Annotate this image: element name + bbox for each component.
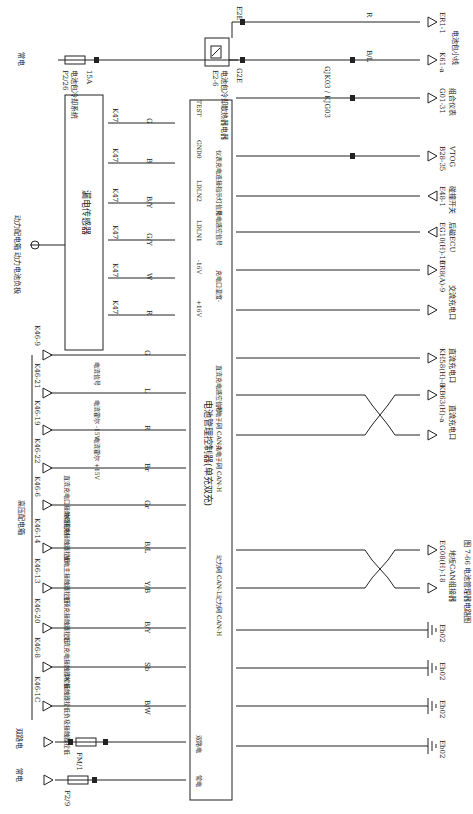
dest-g01-31-desc: 组合仪表: [448, 88, 455, 116]
ground-eb02-2: Eb02: [438, 662, 445, 681]
connector-er1-1-icon: [428, 17, 437, 27]
k47-pin-4: K47: [111, 300, 118, 314]
bms-pin-test: TEST: [196, 100, 202, 117]
k46-13-wire: Y/B: [143, 581, 150, 593]
bms-pin-plus16v: +16V: [196, 300, 202, 317]
relay-id: E2-6: [211, 70, 218, 86]
k47-pin-6: K47: [111, 108, 118, 122]
ground-symbols: [428, 622, 436, 754]
dest-eg10: EG10(H)-10: [438, 222, 445, 264]
k46-22-wire: Br: [143, 463, 150, 472]
dest-e48-1-desc: 碰撞开关: [448, 186, 455, 214]
k47-pin-3: K47: [111, 148, 118, 162]
dest-er8-9: ER8(A)-9: [438, 260, 445, 292]
battery-pack-conn-er1-1: ER1-1: [438, 12, 445, 34]
k46-14: K46-14: [33, 518, 40, 543]
bms-pin-dual-path: 双路电: [196, 735, 202, 753]
battery-pack-group-label: 电池包小线: [451, 30, 458, 65]
ground-eb02-3: Eb02: [438, 700, 445, 719]
k46-6-wire: Gr: [143, 500, 150, 509]
dest-g01-31: G01-31: [438, 88, 445, 114]
k47-wire-r: R: [145, 310, 152, 315]
wire-er1-color: R: [365, 12, 372, 17]
k46-21: K46-21: [33, 363, 40, 388]
k46-1c-wire: B/W: [143, 700, 150, 715]
dest-kh58-desc: 直流充电口: [448, 348, 455, 383]
relay-e2-6-icon: [205, 38, 229, 66]
dest-dc-charge-port: 直流充电口: [448, 405, 455, 440]
bms-r-pin-14: 充电子网 CAN-H: [216, 445, 222, 492]
k46-9-wire: G: [143, 350, 150, 356]
k46-13: K46-13: [33, 558, 40, 583]
k46-20-wire: B/Y: [143, 621, 150, 633]
k47-wire-b: B: [145, 158, 152, 163]
dest-floor-can: 地板CAN组接器: [448, 550, 455, 602]
always-on-label-top: 常电: [17, 52, 24, 66]
k46-21-desc: 电流霍尔 -15V: [94, 400, 100, 440]
bms-r-pin-26: 充电口温度-: [216, 270, 222, 302]
bms-r-pin-22: 动力网 CAN-L: [216, 555, 222, 595]
bms-title: 电池管理控制器(单充双充): [203, 400, 212, 506]
k47-wire-g-y: G/Y: [145, 233, 152, 246]
fuse-top-id: P2/26: [61, 70, 68, 90]
bms-pin-minus16v: -16V: [196, 260, 202, 274]
dest-kh58: KH58(H)-8: [438, 348, 445, 387]
k46-19: K46-19: [33, 400, 40, 425]
dest-ac-charge-port: 交流充电口: [448, 285, 455, 320]
dest-vtog: VTOG: [448, 146, 455, 167]
fuse-top-desc: 电池包冷却系统: [70, 70, 77, 119]
hv-negative-label: 动力配电箱 动力电池负极: [13, 215, 20, 294]
k46-22: K46-22: [33, 438, 40, 463]
bms-r-pin-32: 仪表充电连接指示灯信号: [216, 150, 222, 216]
figure-caption: 图 7-66 电池管理器电路图: [463, 540, 470, 623]
bms-pin-gnd0: GND0: [196, 140, 202, 159]
dest-e48-1: E48-1: [438, 186, 445, 207]
fuse-top-rating: 15A: [85, 70, 92, 84]
dest-eg08-18: EG08(H)-18: [438, 540, 445, 582]
leakage-sensor-title: 漏电传感器: [81, 190, 90, 235]
k46-9: K46-9: [33, 325, 40, 346]
fuse-bottom-id: F2/9: [63, 790, 70, 806]
k46-8-desc: DC接触器拉低: [64, 674, 70, 713]
k46-19-desc: 电流霍尔 +15V: [94, 437, 100, 480]
dest-b28-35: B28-35: [438, 146, 445, 171]
k47-pin-1: K47: [111, 225, 118, 239]
always-on-label-bottom: 常电: [15, 768, 22, 782]
bms-r-pin-18: 充电感应信号: [216, 210, 222, 246]
relay-out-bottom-conn: G2E: [235, 68, 242, 83]
ground-eb02-4: Eb02: [438, 740, 445, 759]
k47-pin-5: K47: [111, 263, 118, 277]
connector-k61-a-icon: [428, 55, 437, 65]
bms-pin-ldln1: LDLN1: [196, 220, 202, 242]
k46-9-desc: 电流信号: [94, 362, 100, 386]
k47-wire-b-y: B/Y: [145, 196, 152, 208]
relay-desc: 电池包冷却散热器电器: [220, 70, 227, 140]
k46-8-wire: Sb: [143, 662, 150, 671]
k46-8: K46-8: [33, 637, 40, 658]
k46-6: K46-6: [33, 476, 40, 497]
bms-r-pin-16: 动力网 CAN-H: [216, 595, 222, 636]
ground-eb02-1: Eb02: [438, 624, 445, 643]
dest-kb63-a: KB63(H)-a: [438, 385, 445, 422]
k46-1c: K46-1C: [33, 676, 40, 702]
battery-pack-conn-k61-a: K61-a: [438, 52, 445, 73]
fuse-dual-id: FM/1: [75, 752, 82, 771]
k46-14-wire: B/L: [143, 541, 150, 553]
hv-box-title: 高压配电箱: [17, 500, 24, 535]
k47-wire-w: W: [145, 273, 152, 280]
dual-path-label: 双路电: [15, 728, 22, 749]
bms-pin-always-on: 常电: [196, 775, 202, 787]
k47-pin-2: K47: [111, 188, 118, 202]
dest-eg10-desc: 后磁ECU: [448, 222, 455, 252]
k46-1c-desc: 负极接触器拉低: [64, 713, 70, 755]
wire-k61-color: B/L: [365, 50, 372, 62]
relay-out-top-conn: E2E: [235, 6, 242, 21]
inline-gjk03: GJK03 / KJG03: [323, 66, 330, 118]
k46-21-wire: L: [143, 388, 150, 393]
bms-pin-ldln2: LDLN2: [196, 180, 202, 202]
k46-19-wire: R: [143, 425, 150, 430]
k47-wire-g: G: [145, 118, 152, 124]
k46-20: K46-20: [33, 598, 40, 623]
